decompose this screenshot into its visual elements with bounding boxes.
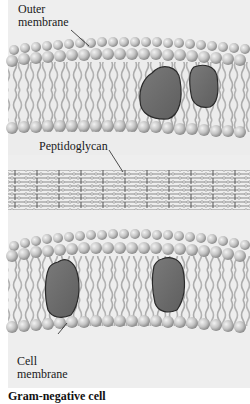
cell-wall-diagram <box>0 0 250 404</box>
outer-membrane-protein <box>190 65 218 107</box>
outer-membrane-label-line2: membrane <box>18 16 69 29</box>
cell-membrane-protein <box>153 258 185 312</box>
outer-membrane-label: Outer membrane <box>18 3 69 29</box>
cell-membrane <box>6 229 250 333</box>
cell-membrane-protein <box>45 260 79 318</box>
cell-membrane-label: Cell membrane <box>17 355 68 381</box>
cell-membrane-label-line2: membrane <box>17 368 68 381</box>
outer-membrane <box>6 37 250 155</box>
figure-caption: Gram-negative cell <box>8 389 106 404</box>
peptidoglycan-label: Peptidoglycan <box>39 140 108 153</box>
peptidoglycan-layer <box>8 170 250 210</box>
